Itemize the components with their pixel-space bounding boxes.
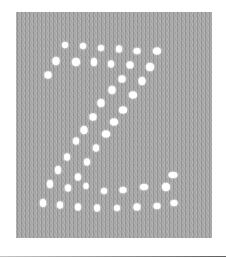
eyelet-hole	[120, 187, 127, 193]
eyelet-hole	[139, 77, 146, 85]
eyelet-hole	[101, 188, 107, 194]
eyelet-hole	[102, 131, 110, 138]
eyelet-hole	[94, 205, 100, 212]
eyelet-hole	[98, 99, 105, 107]
eyelet-hole	[65, 185, 71, 192]
eyelet-hole	[73, 138, 79, 145]
eyelet-hole	[129, 92, 137, 99]
eyelet-hole	[134, 48, 141, 54]
eyelet-hole	[134, 204, 141, 211]
eyelet-hole	[153, 48, 161, 55]
eyelet-hole	[64, 154, 70, 161]
eyelet-hole	[55, 166, 61, 174]
eyelet-hole	[91, 58, 97, 66]
eyelet-hole	[62, 42, 68, 48]
eyelet-hole	[154, 203, 161, 209]
eyelet-hole	[75, 204, 81, 211]
eyelet-hole	[146, 63, 154, 71]
eyelet-hole	[84, 183, 89, 189]
eyelet-hole	[40, 199, 46, 207]
eyelet-hole	[47, 180, 53, 188]
eyelet-hole	[53, 57, 60, 65]
eyelet-hole	[84, 159, 90, 166]
eyelet-hole	[127, 62, 134, 69]
bottom-rule-divider	[0, 256, 226, 257]
knitted-swatch	[16, 12, 212, 238]
eyelet-hole	[171, 200, 178, 206]
eyelet-hole	[80, 43, 86, 49]
eyelet-hole	[72, 58, 80, 66]
eyelet-hole	[140, 184, 148, 190]
eyelet-hole	[110, 119, 118, 126]
eyelet-hole	[57, 202, 63, 209]
eyelet-hole	[162, 183, 170, 191]
eyelet-hole	[98, 45, 104, 51]
eyelet-hole	[114, 205, 120, 211]
eyelet-hole	[116, 46, 122, 53]
eyelet-hole	[169, 172, 178, 178]
eyelet-hole	[90, 114, 97, 121]
eyelet-hole	[119, 76, 126, 83]
eyelet-hole	[108, 61, 114, 68]
eyelet-hole	[93, 145, 99, 152]
eyelet-hole	[45, 72, 52, 79]
eyelet-hole	[119, 107, 127, 114]
eyelet-hole	[81, 126, 88, 134]
eyelet-hole	[109, 86, 116, 94]
eyelet-hole	[75, 174, 81, 181]
